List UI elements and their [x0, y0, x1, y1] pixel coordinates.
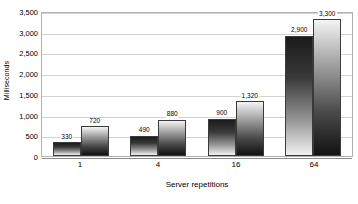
- y-axis-tick-label: 0: [34, 153, 38, 162]
- x-axis-tick-labels: 141664: [41, 160, 353, 174]
- bar-value-label: 720: [88, 118, 101, 125]
- bar-value-label: 1,320: [241, 93, 259, 100]
- y-axis-tick-label: 500: [25, 132, 38, 141]
- x-axis-tick-label: 4: [130, 160, 186, 169]
- bar[interactable]: [285, 36, 313, 156]
- y-axis-tick-label: 1,000: [19, 111, 38, 120]
- x-axis-tick-label: 16: [208, 160, 264, 169]
- bar[interactable]: [158, 120, 186, 156]
- y-axis-tick-label: 3,500: [19, 8, 38, 17]
- y-axis-tick-label: 1,500: [19, 90, 38, 99]
- bar-value-label: 900: [215, 110, 228, 117]
- plot-area: 3307204908809001,3202,9003,300: [41, 12, 353, 157]
- bar-value-label: 490: [138, 127, 151, 134]
- bar-group: 330720: [53, 13, 109, 156]
- x-axis-title: Server repetitions: [41, 180, 353, 189]
- bar[interactable]: [208, 119, 236, 156]
- bar-slot: 330: [53, 13, 81, 156]
- bar-group: 490880: [130, 13, 186, 156]
- bar-slot: 720: [81, 13, 109, 156]
- y-axis-tick-labels: 3,5003,0002,5002,0001,5001,0005000: [12, 12, 38, 157]
- bar-value-label: 3,300: [318, 11, 336, 18]
- bar-slot: 880: [158, 13, 186, 156]
- bar-slot: 490: [130, 13, 158, 156]
- axis-baseline: [42, 158, 352, 159]
- bar-slot: 1,320: [236, 13, 264, 156]
- bar-slot: 900: [208, 13, 236, 156]
- x-axis-tick-label: 64: [286, 160, 342, 169]
- y-axis-tick-label: 3,000: [19, 28, 38, 37]
- bar-groups-container: 3307204908809001,3202,9003,300: [42, 13, 352, 156]
- bar-value-label: 880: [166, 111, 179, 118]
- y-axis-tick-label: 2,000: [19, 70, 38, 79]
- bar-slot: 3,300: [313, 13, 341, 156]
- y-axis-tick-label: 2,500: [19, 49, 38, 58]
- bar[interactable]: [130, 136, 158, 156]
- bar[interactable]: [81, 126, 109, 156]
- bar-group: 2,9003,300: [285, 13, 341, 156]
- x-axis-tick-label: 1: [52, 160, 108, 169]
- bar[interactable]: [236, 101, 264, 156]
- bar[interactable]: [53, 142, 81, 156]
- bar-group: 9001,320: [208, 13, 264, 156]
- bar-chart-figure: Milliseconds 3,5003,0002,5002,0001,5001,…: [0, 0, 358, 204]
- bar-value-label: 2,900: [290, 27, 308, 34]
- bar[interactable]: [313, 19, 341, 156]
- bar-slot: 2,900: [285, 13, 313, 156]
- bar-value-label: 330: [60, 134, 73, 141]
- y-axis-title-label: Milliseconds: [4, 60, 11, 99]
